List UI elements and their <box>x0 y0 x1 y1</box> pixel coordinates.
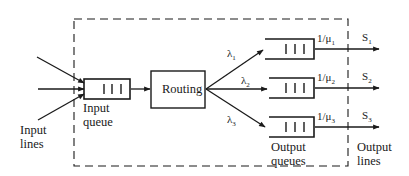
input-queue <box>84 79 130 99</box>
server-label-2: S2 <box>362 71 372 85</box>
arrival-rate-1: λ1 <box>227 48 236 62</box>
routing-output-arrows <box>206 50 267 127</box>
output-queues-label: Output queues <box>271 140 306 168</box>
output-queue-3 <box>269 117 314 137</box>
output-queue-1 <box>265 39 314 59</box>
service-rate-1: 1/μ1 <box>317 33 335 47</box>
output-queue-2 <box>269 78 314 98</box>
diagram-graphics <box>0 0 409 176</box>
server-label-1: S1 <box>362 32 372 46</box>
service-rate-2: 1/μ2 <box>317 72 335 86</box>
input-lines-arrows <box>37 57 84 120</box>
input-lines-label: Input lines <box>20 123 46 151</box>
input-queue-label: Input queue <box>83 101 113 129</box>
routing-label: Routing <box>162 83 202 96</box>
output-lines-label: Output lines <box>357 140 392 168</box>
queueing-diagram: Input lines Input queue Routing Output q… <box>0 0 409 176</box>
service-rate-3: 1/μ3 <box>317 111 335 125</box>
arrival-rate-2: λ2 <box>241 75 250 89</box>
server-label-3: S3 <box>362 110 372 124</box>
arrival-rate-3: λ3 <box>227 114 236 128</box>
